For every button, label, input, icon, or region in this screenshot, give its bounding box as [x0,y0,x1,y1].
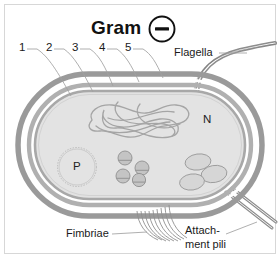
plasmid-label: P [73,160,81,172]
page-title: Gram [91,17,141,39]
attachment-pili-leader [226,222,257,234]
ribosome [118,151,132,165]
gram-negative-symbol [150,17,175,42]
nucleoid-label: N [203,113,211,125]
flagella-label: Flagella [174,46,213,59]
fimbriae-label: Fimbriae [66,227,109,240]
ribosome [135,161,149,175]
callout-number-2: 2 [46,41,52,53]
ribosome [132,173,145,186]
cell-envelope [18,74,262,216]
callout-number-3: 3 [72,41,78,53]
ribosome [116,169,130,183]
callout-number-5: 5 [125,41,131,53]
gram-negative-bacterium-figure: Gram 1 2 3 4 5 Flagella Fimbriae Attach-… [0,0,280,258]
fimbriae-leader [112,232,147,234]
attachment-pili-label-line2: ment pili [185,238,226,251]
attachment-pili-label-line1: Attach- [185,224,220,237]
callout-number-1: 1 [19,41,25,53]
callout-number-4: 4 [99,41,105,53]
